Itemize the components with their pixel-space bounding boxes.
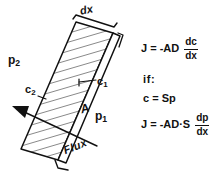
equation-lhs: J = -AD [141, 42, 179, 54]
equation-if-condition: if: [141, 73, 217, 85]
equation-solubility: c = Sp [141, 92, 217, 104]
fraction-dc-dx: dc dx [184, 37, 198, 61]
equation-block: J = -AD dc dx if: c = Sp J = -AD·S dp dx [141, 36, 217, 136]
equation-lhs: c = Sp [143, 92, 176, 104]
equation-fick-pressure: J = -AD·S dp dx [141, 112, 217, 136]
flux-arrowhead [12, 106, 29, 118]
fraction-numerator: dp [195, 113, 209, 124]
equation-fick-concentration: J = -AD dc dx [141, 36, 217, 60]
c2-leader [38, 96, 46, 99]
label-c1: c1 [97, 76, 108, 89]
fraction-denominator: dx [184, 51, 198, 62]
label-p1: p1 [95, 110, 107, 124]
label-p2: p2 [8, 54, 20, 68]
fraction-denominator: dx [195, 127, 209, 138]
equation-lhs: J = -AD·S [141, 118, 190, 130]
label-c2: c2 [25, 84, 36, 97]
fraction-dp-dx: dp dx [195, 113, 209, 137]
equation-lhs: if: [143, 73, 155, 85]
thickness-bracket-dx [73, 15, 117, 27]
diffusion-slab-figure: p2 c2 c1 p1 A dx Flux J = -AD dc dx if: … [0, 0, 218, 177]
fraction-numerator: dc [184, 37, 198, 48]
